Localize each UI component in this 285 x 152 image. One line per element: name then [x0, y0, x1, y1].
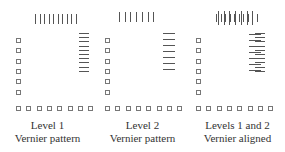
horizontal-tick	[249, 40, 261, 41]
square-mark	[196, 79, 201, 84]
horizontal-tick	[79, 71, 89, 72]
square-mark	[57, 106, 62, 111]
square-mark	[157, 106, 162, 111]
vertical-tick	[239, 14, 240, 22]
vertical-tick	[229, 11, 230, 25]
vertical-tick	[218, 11, 219, 25]
caption-line1: Levels 1 and 2	[190, 119, 285, 132]
vertical-tick	[71, 14, 72, 24]
vertical-tick	[76, 14, 77, 24]
square-mark	[78, 106, 83, 111]
caption-line2: Vernier pattern	[0, 132, 95, 145]
caption-line2: Vernier aligned	[190, 132, 285, 145]
vertical-tick	[221, 14, 222, 22]
vertical-tick	[35, 14, 36, 24]
vertical-tick	[225, 14, 226, 22]
vertical-tick	[243, 14, 244, 22]
square-mark	[105, 79, 110, 84]
horizontal-tick	[249, 52, 261, 53]
panel-aligned: Levels 1 and 2 Vernier aligned	[190, 0, 285, 152]
horizontal-tick	[249, 58, 261, 59]
horizontal-tick	[255, 67, 265, 68]
caption-line1: Level 1	[0, 119, 95, 132]
vertical-tick	[142, 12, 143, 22]
horizontal-tick	[163, 45, 175, 46]
horizontal-tick	[255, 37, 265, 38]
square-mark	[177, 106, 182, 111]
panel-level1: Level 1 Vernier pattern	[0, 0, 95, 152]
vertical-tick	[44, 14, 45, 24]
panel-level2: Level 2 Vernier pattern	[95, 0, 190, 152]
vertical-tick	[216, 14, 217, 22]
horizontal-tick	[79, 62, 89, 63]
vertical-tick	[248, 14, 249, 22]
vertical-tick	[247, 11, 248, 25]
horizontal-tick	[249, 46, 261, 47]
horizontal-tick	[79, 58, 89, 59]
horizontal-tick	[163, 51, 175, 52]
square-mark	[16, 106, 21, 111]
square-mark	[105, 59, 110, 64]
square-mark	[248, 106, 253, 111]
vertical-tick	[53, 14, 54, 24]
vertical-tick	[148, 12, 149, 22]
horizontal-tick	[79, 33, 89, 34]
square-mark	[227, 106, 232, 111]
horizontal-tick	[163, 57, 175, 58]
square-mark	[105, 90, 110, 95]
horizontal-tick	[79, 46, 89, 47]
square-mark	[105, 106, 110, 111]
square-mark	[88, 106, 93, 111]
square-mark	[26, 106, 31, 111]
vertical-tick	[58, 14, 59, 24]
horizontal-tick	[79, 37, 89, 38]
square-mark	[47, 106, 52, 111]
square-mark	[237, 106, 242, 111]
horizontal-tick	[249, 34, 261, 35]
square-mark	[258, 106, 263, 111]
square-mark	[105, 48, 110, 53]
vertical-tick	[40, 14, 41, 24]
horizontal-tick	[249, 64, 261, 65]
square-mark	[126, 106, 131, 111]
square-mark	[217, 106, 222, 111]
square-mark	[167, 106, 172, 111]
square-mark	[68, 106, 73, 111]
vertical-tick	[241, 11, 242, 25]
vertical-tick	[119, 12, 120, 22]
horizontal-tick	[79, 50, 89, 51]
vertical-tick	[252, 11, 253, 25]
vertical-tick	[49, 14, 50, 24]
horizontal-tick	[163, 63, 175, 64]
caption: Level 2 Vernier pattern	[95, 119, 190, 145]
square-mark	[268, 106, 273, 111]
square-mark	[16, 38, 21, 43]
square-mark	[196, 48, 201, 53]
square-mark	[105, 38, 110, 43]
horizontal-tick	[163, 69, 175, 70]
square-mark	[206, 106, 211, 111]
horizontal-tick	[79, 41, 89, 42]
square-mark	[196, 38, 201, 43]
horizontal-tick	[163, 39, 175, 40]
vertical-tick	[153, 12, 154, 22]
square-mark	[115, 106, 120, 111]
horizontal-tick	[163, 33, 175, 34]
square-mark	[16, 48, 21, 53]
horizontal-tick	[79, 54, 89, 55]
horizontal-tick	[79, 67, 89, 68]
square-mark	[16, 79, 21, 84]
square-mark	[196, 90, 201, 95]
square-mark	[196, 59, 201, 64]
square-mark	[37, 106, 42, 111]
square-mark	[196, 69, 201, 74]
horizontal-tick	[255, 41, 265, 42]
caption-line2: Vernier pattern	[95, 132, 190, 145]
horizontal-tick	[255, 50, 265, 51]
caption: Levels 1 and 2 Vernier aligned	[190, 119, 285, 145]
square-mark	[16, 69, 21, 74]
vertical-tick	[67, 14, 68, 24]
vertical-tick	[130, 12, 131, 22]
square-mark	[16, 59, 21, 64]
vertical-tick	[136, 12, 137, 22]
